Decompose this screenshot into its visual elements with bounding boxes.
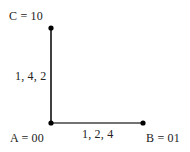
edge-a-c-label: 1, 4, 2 bbox=[15, 70, 46, 82]
node-a-point bbox=[48, 120, 53, 125]
edge-a-b-label: 1, 2, 4 bbox=[82, 128, 113, 140]
node-a-label: A = 00 bbox=[10, 132, 44, 144]
node-c-point bbox=[48, 25, 53, 30]
node-b-label: B = 01 bbox=[146, 132, 180, 144]
node-c-label: C = 10 bbox=[9, 10, 43, 22]
node-b-point bbox=[140, 120, 145, 125]
